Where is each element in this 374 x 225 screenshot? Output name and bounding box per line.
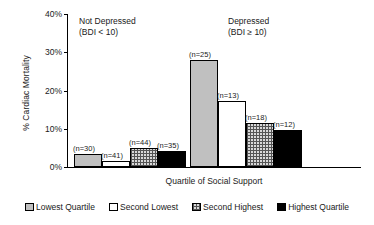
bar-count-label: (n=41) [101,152,123,160]
chart-legend: Lowest QuartileSecond LowestSecond Highe… [0,203,374,212]
bar-count-label: (n=25) [189,51,211,59]
y-axis-line [67,14,68,168]
legend-label: Lowest Quartile [36,203,95,212]
bar [218,101,246,167]
bar [74,154,102,167]
bar [246,123,274,167]
y-axis-tick-marks [0,0,374,225]
group-header-not-depressed: Not Depressed (BDI < 10) [79,16,136,38]
legend-swatch-icon [109,203,118,211]
bar [130,148,158,167]
bar-count-label: (n=13) [217,92,239,100]
legend-swatch-icon [277,203,286,211]
legend-swatch-icon [192,203,201,211]
legend-item[interactable]: Lowest Quartile [25,203,95,212]
x-axis-line [67,167,361,168]
bar [102,161,130,167]
bar-count-label: (n=35) [157,142,179,150]
bar-count-label: (n=18) [245,114,267,122]
bar [158,151,186,167]
bar-count-label: (n=12) [273,121,295,129]
legend-item[interactable]: Highest Quartile [277,203,349,212]
bar [190,60,218,167]
legend-swatch-icon [25,203,34,211]
legend-item[interactable]: Second Highest [192,203,263,212]
group-header-depressed: Depressed (BDI ≥ 10) [228,16,269,38]
bar [274,130,302,167]
legend-item[interactable]: Second Lowest [109,203,178,212]
legend-label: Second Highest [203,203,263,212]
cardiac-mortality-bar-chart: % Cardiac Mortality 40%30%20%10%0% Not D… [0,0,374,225]
legend-label: Second Lowest [120,203,178,212]
bar-count-label: (n=44) [129,139,151,147]
x-axis-title: Quartile of Social Support [67,176,361,186]
bar-count-label: (n=30) [73,145,95,153]
legend-label: Highest Quartile [288,203,349,212]
